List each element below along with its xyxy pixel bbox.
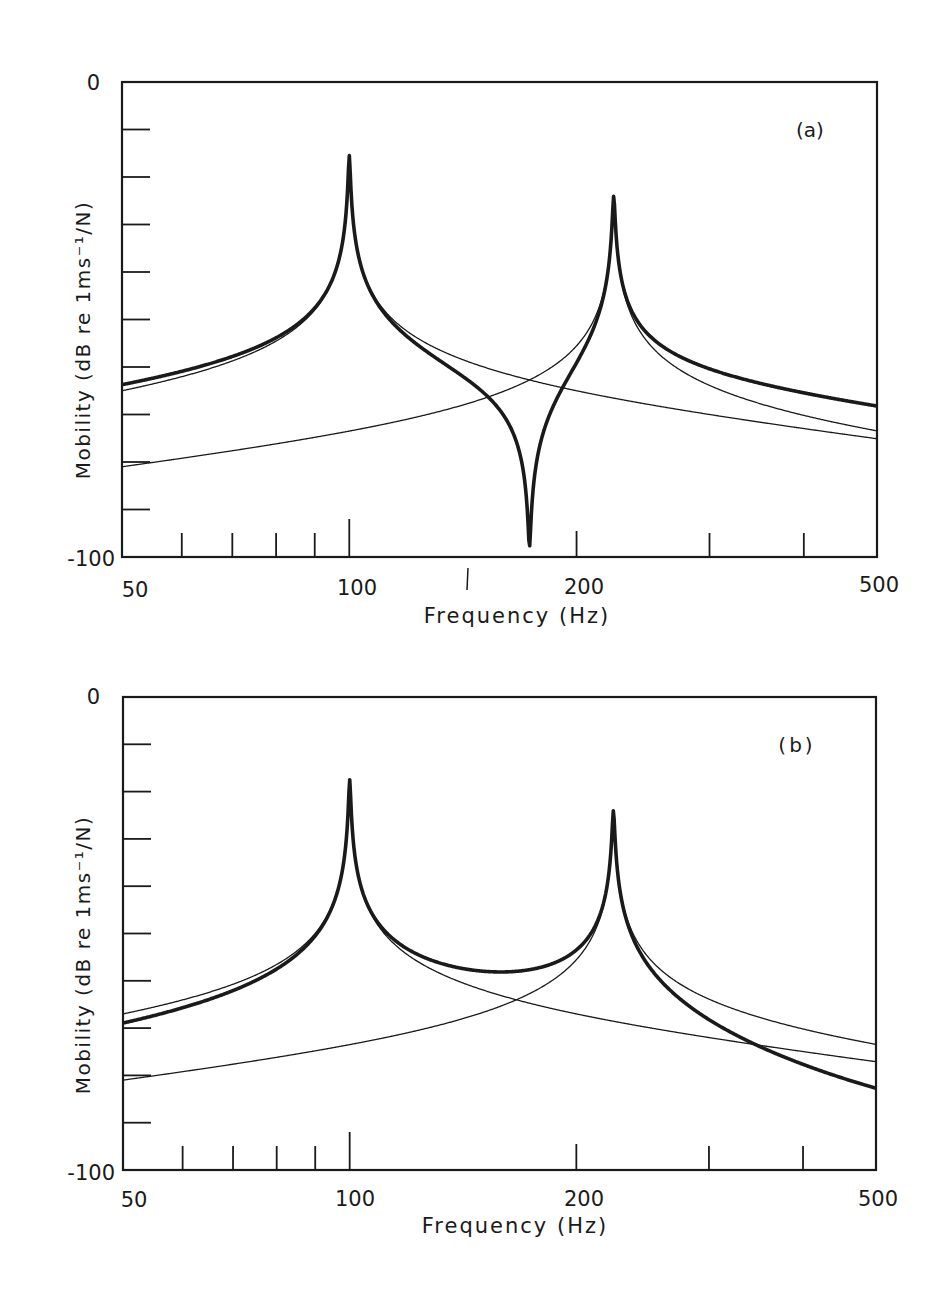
plot-frame	[122, 82, 877, 557]
x-tick-label-500: 500	[859, 573, 899, 597]
total-mobility-curve	[122, 156, 877, 546]
x-tick-label-100: 100	[337, 576, 377, 600]
total-mobility-curve	[123, 780, 876, 1089]
y-axis-label: Mobility (dB re 1ms⁻¹/N)	[71, 816, 95, 1095]
plot-frame	[123, 697, 876, 1170]
mode1-curve	[123, 780, 876, 1062]
mode1-curve	[122, 156, 877, 439]
y-tick-label-top: 0	[87, 71, 100, 95]
panel-label-b: (b)	[778, 733, 815, 757]
x-axis-label: Frequency (Hz)	[422, 1214, 608, 1238]
panel-b: 0 -100 50 100 200 500 Frequency (Hz) Mob…	[67, 685, 898, 1238]
x-tick-label-200: 200	[564, 575, 604, 599]
panel-a: 0 -100 50 100 200 500 Frequency (Hz) Mob…	[67, 71, 899, 628]
mode2-curve	[123, 811, 876, 1080]
x-tick-label-100: 100	[335, 1187, 375, 1211]
figure: 0 -100 50 100 200 500 Frequency (Hz) Mob…	[0, 0, 939, 1303]
x-tick-label-50: 50	[121, 1188, 148, 1212]
y-tick-label-bottom: -100	[67, 547, 115, 571]
x-tick-label-200: 200	[564, 1187, 604, 1211]
y-ticks	[122, 130, 150, 510]
x-tick-label-500: 500	[858, 1187, 898, 1211]
mode2-curve	[122, 196, 877, 466]
x-ticks	[182, 519, 804, 557]
y-ticks	[123, 744, 151, 1122]
y-tick-label-bottom: -100	[67, 1161, 115, 1185]
y-axis-label: Mobility (dB re 1ms⁻¹/N)	[71, 201, 95, 480]
stray-mark	[467, 568, 468, 590]
x-ticks	[183, 1132, 803, 1170]
y-tick-label-top: 0	[87, 685, 100, 709]
panel-label-a: (a)	[796, 118, 824, 142]
x-axis-label: Frequency (Hz)	[424, 604, 610, 628]
x-tick-label-50: 50	[122, 578, 149, 602]
